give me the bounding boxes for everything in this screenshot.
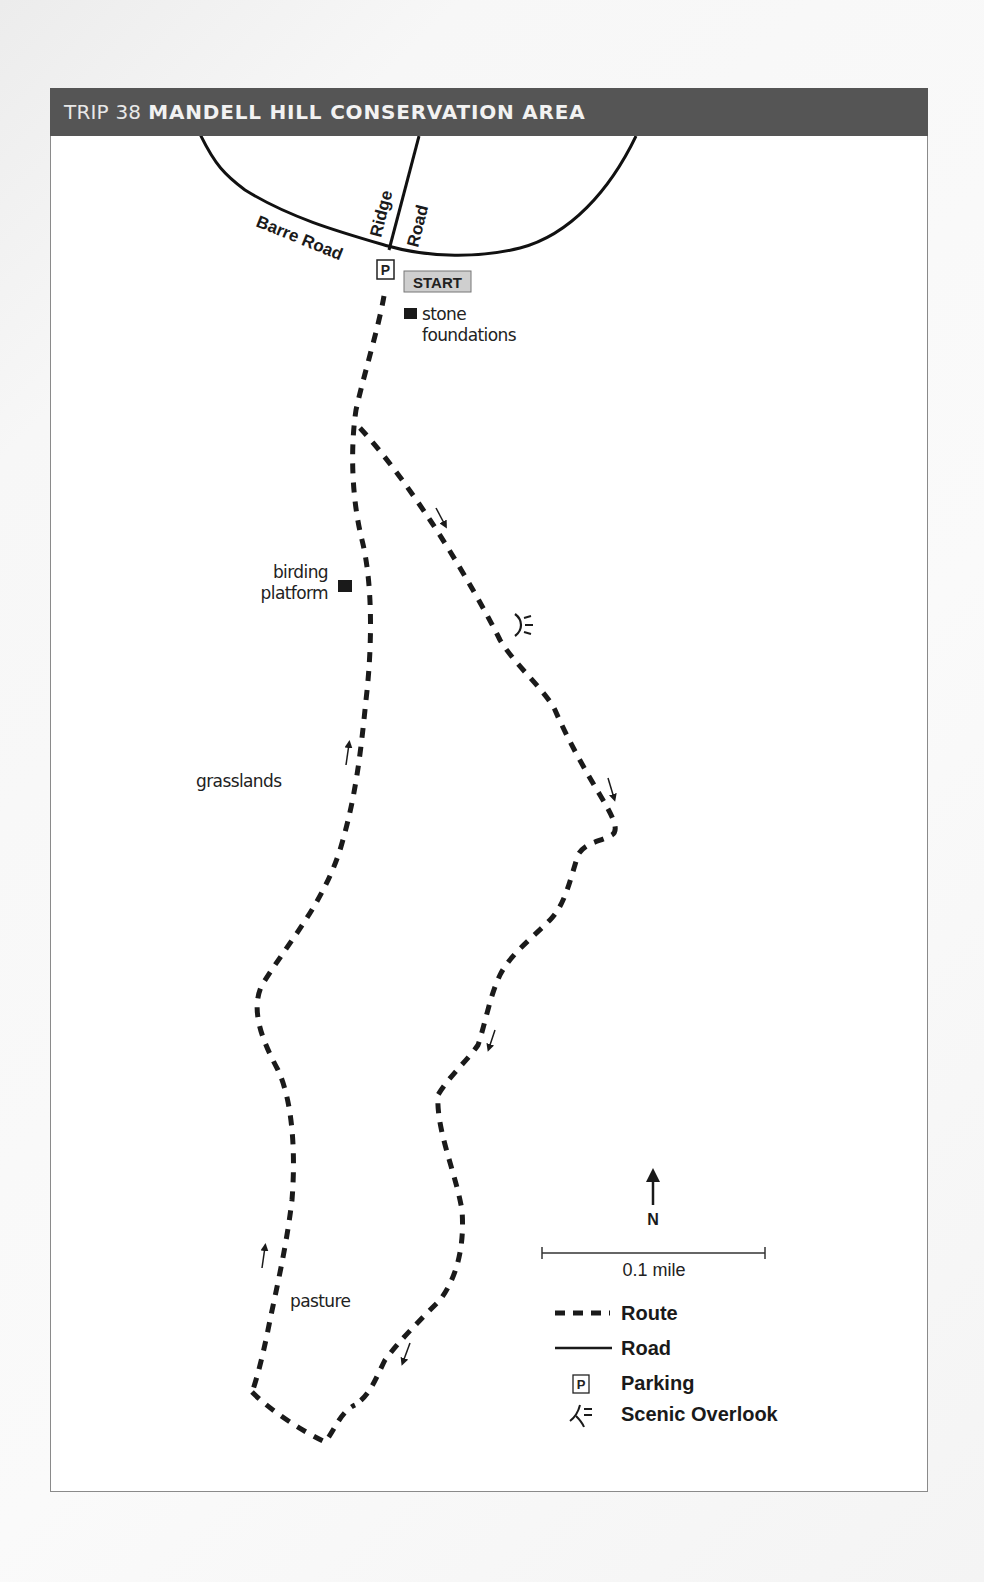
trail-map: Barre Road Ridge Road P START stone foun… — [0, 0, 984, 1582]
svg-text:birding: birding — [273, 562, 328, 582]
svg-text:Parking: Parking — [621, 1372, 694, 1394]
north-arrow: N — [646, 1168, 660, 1228]
legend: Route Road P Parking Scenic Overlook — [555, 1302, 779, 1427]
arrow-down-icon — [403, 1343, 410, 1362]
legend-item-road: Road — [555, 1337, 671, 1359]
svg-text:N: N — [647, 1211, 659, 1228]
route-west-branch — [252, 296, 384, 1392]
pasture-label: pasture — [290, 1291, 351, 1311]
parking-marker: P — [377, 260, 394, 279]
ridge-road-label: Ridge Road — [366, 189, 432, 249]
direction-arrows — [262, 508, 614, 1362]
birding-platform-marker: birding platform — [261, 562, 352, 603]
scenic-overlook-icon — [570, 1405, 592, 1427]
svg-text:Route: Route — [621, 1302, 678, 1324]
arrow-down-icon — [489, 1030, 495, 1048]
legend-item-scenic-overlook: Scenic Overlook — [570, 1403, 779, 1427]
barre-road-label: Barre Road — [254, 212, 346, 264]
scenic-overlook-icon — [515, 614, 533, 636]
square-marker-icon — [404, 308, 417, 319]
start-badge: START — [404, 271, 471, 292]
svg-text:P: P — [577, 1377, 586, 1392]
svg-text:Barre Road: Barre Road — [254, 212, 346, 264]
arrow-up-icon — [346, 744, 349, 765]
svg-text:Road: Road — [403, 203, 432, 249]
svg-text:foundations: foundations — [422, 325, 517, 345]
arrow-down-icon — [608, 778, 614, 798]
scale-bar: 0.1 mile — [542, 1247, 765, 1280]
svg-text:P: P — [381, 262, 390, 278]
svg-text:Scenic Overlook: Scenic Overlook — [621, 1403, 779, 1425]
svg-text:Road: Road — [621, 1337, 671, 1359]
svg-text:0.1 mile: 0.1 mile — [622, 1260, 685, 1280]
route-south-loop — [252, 1392, 355, 1442]
legend-item-parking: P Parking — [573, 1372, 694, 1394]
grasslands-label: grasslands — [196, 771, 282, 791]
arrow-up-icon — [262, 1247, 265, 1268]
svg-text:START: START — [413, 274, 462, 291]
svg-text:Ridge: Ridge — [366, 189, 396, 239]
square-marker-icon — [338, 580, 352, 592]
route-east-branch — [355, 428, 615, 1405]
stone-foundations-marker: stone foundations — [404, 304, 517, 345]
svg-text:platform: platform — [261, 583, 328, 603]
svg-text:stone: stone — [422, 304, 466, 324]
north-arrow-icon — [646, 1168, 660, 1182]
legend-item-route: Route — [555, 1302, 678, 1324]
arrow-down-icon — [436, 508, 445, 525]
